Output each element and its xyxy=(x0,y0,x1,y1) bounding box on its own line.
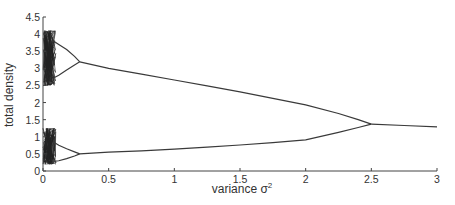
x-tick-label: 1 xyxy=(171,173,177,185)
y-tick-label: 0 xyxy=(34,165,40,177)
y-tick-label: 3 xyxy=(34,62,40,74)
x-tick-label: 0.5 xyxy=(101,173,116,185)
y-tick-label: 0.5 xyxy=(25,148,40,160)
x-tick-label: 0 xyxy=(40,173,46,185)
y-tick-label: 1 xyxy=(34,131,40,143)
x-tick-label: 2 xyxy=(303,173,309,185)
chaotic-band xyxy=(43,128,56,164)
y-tick-label: 1.5 xyxy=(25,114,40,126)
branch-curve xyxy=(80,124,372,154)
branch-curve xyxy=(371,124,437,127)
branch-curves xyxy=(54,41,437,161)
x-tick-label: 3 xyxy=(434,173,440,185)
sub-branch-curve xyxy=(54,154,80,162)
branch-curve xyxy=(80,62,372,124)
y-tick-label: 2.5 xyxy=(25,79,40,91)
y-tick-label: 4 xyxy=(34,28,40,40)
sub-branch-curve xyxy=(54,62,80,78)
bifurcation-chart: 00.511.522.53 00.511.522.533.544.5 varia… xyxy=(0,0,455,205)
y-tick-label: 4.5 xyxy=(25,11,40,23)
x-tick-label: 2.5 xyxy=(364,173,379,185)
y-tick-label: 2 xyxy=(34,97,40,109)
axes xyxy=(43,17,437,171)
sub-branch-curve xyxy=(54,41,80,62)
y-axis-label: total density xyxy=(2,63,16,127)
y-tick-label: 3.5 xyxy=(25,45,40,57)
x-axis-label: variance σ2 xyxy=(212,181,273,196)
sub-branch-curve xyxy=(54,142,80,154)
